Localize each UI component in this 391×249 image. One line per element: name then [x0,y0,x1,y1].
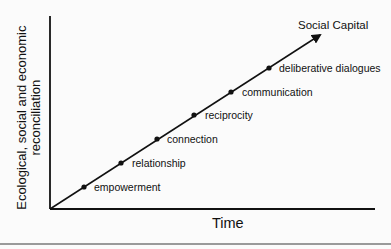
social-capital-diagram: Social Capital empowerment relationship … [0,0,391,249]
y-axis-label-line1: Ecological, social and economic [15,18,29,218]
diagram-graphics [0,0,391,249]
diagram-title: Social Capital [298,20,368,32]
y-axis-label-line2: reconciliation [29,18,43,218]
stage-point-deliberative-dialogues [266,65,271,70]
stage-point-empowerment [81,184,86,189]
stage-point-connection [154,136,159,141]
y-axis-label: Ecological, social and economic reconcil… [15,18,42,218]
stage-label-relationship: relationship [132,158,186,169]
bottom-rule [0,243,391,245]
stage-label-reciprocity: reciprocity [205,110,253,121]
stage-label-connection: connection [167,134,218,145]
x-axis-label: Time [212,215,244,231]
stage-label-communication: communication [242,87,313,98]
stage-point-communication [228,89,233,94]
stage-label-empowerment: empowerment [94,182,161,193]
stage-label-deliberative-dialogues: deliberative dialogues [279,63,381,74]
stage-point-relationship [118,160,123,165]
stage-point-reciprocity [191,112,196,117]
